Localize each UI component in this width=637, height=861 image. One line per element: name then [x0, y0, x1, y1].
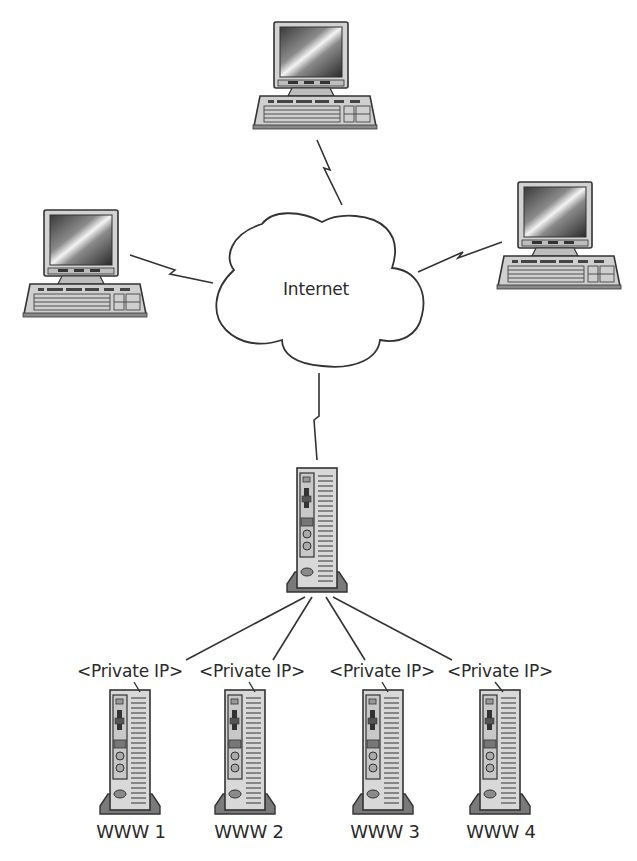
private-ip-label-www4: <Private IP>	[447, 661, 553, 681]
link-gateway-www3	[326, 597, 365, 660]
server-name-www2: WWW 2	[214, 821, 284, 842]
link-gateway-www4	[333, 597, 452, 660]
web-server-www3	[353, 690, 413, 814]
link-left-to-cloud	[130, 255, 213, 283]
web-server-www2	[215, 690, 275, 814]
link-gateway-www1	[186, 597, 305, 660]
workstation-right	[497, 182, 621, 289]
internet-label: Internet	[283, 279, 349, 299]
private-ip-label-www3: <Private IP>	[329, 661, 435, 681]
server-name-www1: WWW 1	[96, 821, 166, 842]
network-diagram	[0, 0, 637, 861]
workstation-left	[23, 210, 147, 317]
workstation-top	[253, 22, 377, 129]
link-right-to-cloud	[418, 242, 502, 272]
private-ip-label-www2: <Private IP>	[199, 661, 305, 681]
link-gateway-www2	[273, 597, 312, 660]
links-gateway-to-servers	[186, 597, 452, 660]
server-name-www3: WWW 3	[350, 821, 420, 842]
web-server-www4	[470, 690, 530, 814]
web-server-www1	[100, 690, 160, 814]
server-name-www4: WWW 4	[466, 821, 536, 842]
gateway-server	[287, 468, 347, 592]
private-ip-label-www1: <Private IP>	[77, 661, 183, 681]
link-cloud-to-gateway	[314, 373, 319, 460]
link-top-to-cloud	[317, 140, 342, 205]
